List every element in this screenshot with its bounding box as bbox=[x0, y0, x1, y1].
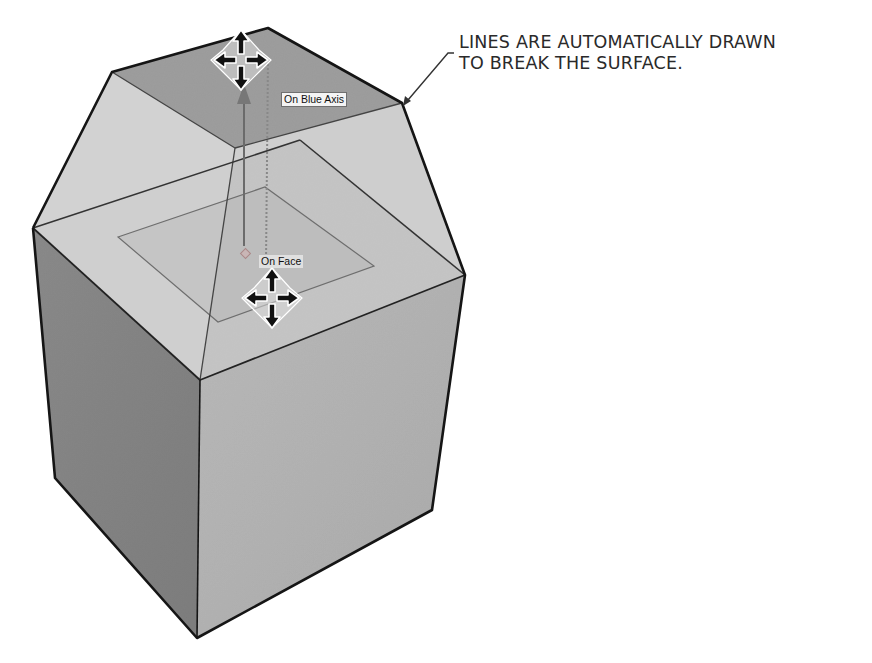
sketchup-model-canvas[interactable] bbox=[0, 0, 872, 663]
callout-line-2: TO BREAK THE SURFACE. bbox=[459, 53, 776, 74]
callout-leader bbox=[403, 53, 454, 106]
inference-tooltip-blue-axis: On Blue Axis bbox=[281, 92, 347, 107]
callout-line-1: LINES ARE AUTOMATICALLY DRAWN bbox=[459, 32, 776, 53]
callout-annotation: LINES ARE AUTOMATICALLY DRAWN TO BREAK T… bbox=[459, 32, 776, 74]
inference-tooltip-on-face: On Face bbox=[259, 255, 303, 268]
